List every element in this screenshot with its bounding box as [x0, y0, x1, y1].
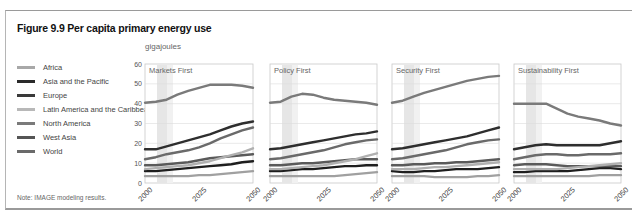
y-tick-label: 60: [134, 61, 142, 68]
x-tick-label: 2050: [490, 185, 508, 203]
chart-panels: Markets First0102030405060200020252050Po…: [0, 0, 634, 218]
chart-panel-policy-first: Policy First200020252050: [261, 64, 386, 203]
x-tick-label: 2050: [612, 185, 630, 203]
y-tick-label: 0: [138, 180, 142, 187]
y-tick-label: 20: [134, 140, 142, 147]
panel-title: Policy First: [274, 66, 312, 75]
x-tick-label: 2025: [190, 185, 208, 203]
chart-panel-sustainability-first: Sustainability First200020252050: [505, 64, 630, 203]
panel-title: Sustainability First: [518, 66, 580, 75]
y-tick-label: 30: [134, 120, 142, 127]
x-tick-label: 2050: [244, 185, 262, 203]
x-tick-label: 2050: [368, 185, 386, 203]
x-tick-label: 2000: [505, 185, 523, 203]
x-tick-label: 2000: [136, 185, 154, 203]
chart-panel-security-first: Security First200020252050: [383, 64, 508, 203]
x-tick-label: 2025: [315, 185, 333, 203]
y-tick-label: 40: [134, 100, 142, 107]
x-tick-label: 2025: [559, 185, 577, 203]
x-tick-label: 2025: [437, 185, 455, 203]
series-line-africa: [514, 175, 621, 176]
panel-title: Markets First: [149, 66, 193, 75]
chart-panel-markets-first: Markets First0102030405060200020252050: [134, 61, 262, 204]
panel-title: Security First: [396, 66, 441, 75]
y-tick-label: 10: [134, 160, 142, 167]
x-tick-label: 2000: [383, 185, 401, 203]
y-tick-label: 50: [134, 80, 142, 87]
x-tick-label: 2000: [261, 185, 279, 203]
